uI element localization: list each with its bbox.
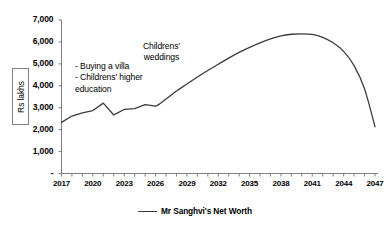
legend-line-swatch [138,211,157,212]
annotation-events: - Buying a villa - Childrens' higher edu… [75,61,143,95]
legend-label-net-worth: Mr Sanghvi's Net Worth [161,206,252,216]
annotation-weddings: Childrens' weddings [143,41,180,64]
chart-legend: Mr Sanghvi's Net Worth [0,206,390,216]
axis-lines [62,20,379,174]
net-worth-line-chart: Rs lakhs -1,0002,0003,0004,0005,0006,000… [0,0,390,233]
plot-area [0,0,390,233]
